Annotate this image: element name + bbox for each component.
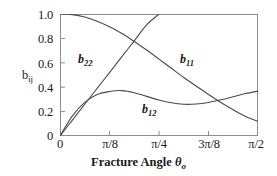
y-tick-label: 0.6: [38, 58, 53, 70]
curve-label-b22-subscript: 22: [84, 58, 93, 68]
x-tick-label: π/2: [248, 138, 263, 151]
x-axis-ticks: [60, 131, 258, 136]
curve-label-b12-subscript: 12: [148, 108, 157, 118]
y-tick-label: 0.8: [38, 33, 53, 45]
x-axis-tick-labels: 0 π/8 π/4 3π/8 π/2: [0, 138, 277, 156]
x-axis-title-subscript: o: [181, 161, 186, 171]
curve-label-b12: b12: [142, 102, 157, 118]
x-tick-label: π/4: [151, 138, 166, 151]
curve-label-b11: b11: [180, 52, 194, 68]
x-tick-label: π/8: [102, 138, 117, 151]
y-axis-title-subscript: ij: [28, 74, 32, 84]
curve-b22: [60, 14, 159, 136]
x-tick-label: 0: [57, 138, 63, 151]
curve-label-b11-subscript: 11: [186, 58, 194, 68]
curve-label-b22: b22: [78, 52, 93, 68]
curve-b11: [60, 14, 258, 121]
x-axis-title-text: Fracture Angle: [91, 155, 175, 169]
x-axis-title: Fracture Angle θo: [0, 155, 277, 171]
y-tick-label: 0.4: [38, 82, 53, 94]
y-tick-label: 1.0: [38, 9, 53, 21]
y-axis-title: bij: [22, 68, 33, 84]
plot-area: [60, 14, 258, 136]
chart-figure: 1.0 0.8 0.6 0.4 0.2 0 bij: [0, 0, 277, 176]
y-tick-label: 0.2: [38, 106, 53, 118]
x-tick-label: 3π/8: [198, 138, 219, 151]
y-axis-ticks: [60, 14, 65, 136]
